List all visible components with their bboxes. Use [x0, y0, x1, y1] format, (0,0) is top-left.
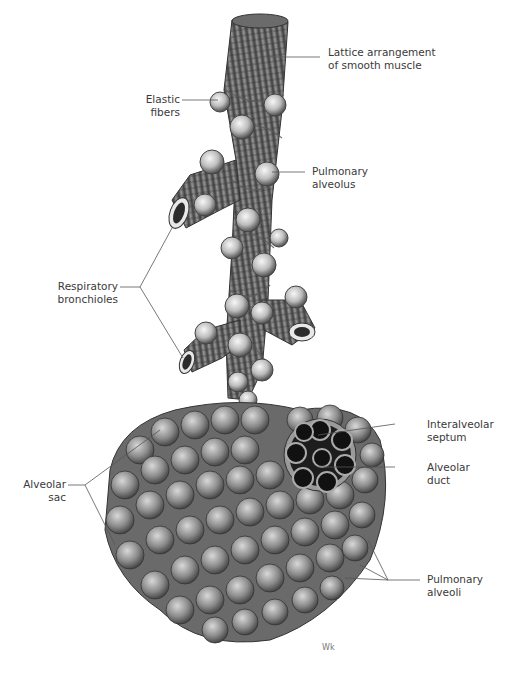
label-respiratory-bronchioles: Respiratory bronchioles: [50, 280, 118, 306]
label-line: Lattice arrangement: [328, 46, 436, 59]
label-line: Elastic: [140, 93, 180, 106]
label-line: sac: [16, 491, 66, 504]
label-line: septum: [427, 431, 494, 444]
label-interalveolar-septum: Interalveolar septum: [427, 418, 494, 444]
label-elastic-fibers: Elastic fibers: [140, 93, 180, 119]
artist-signature: Wk: [322, 643, 335, 652]
label-alveolar-sac: Alveolar sac: [16, 478, 66, 504]
label-line: Respiratory: [50, 280, 118, 293]
label-pulmonary-alveolus: Pulmonary alveolus: [312, 165, 368, 191]
label-pulmonary-alveoli: Pulmonary alveoli: [427, 573, 483, 599]
label-line: alveoli: [427, 586, 483, 599]
label-alveolar-duct: Alveolar duct: [427, 461, 470, 487]
label-line: Alveolar: [427, 461, 470, 474]
alveolar-duct-cross-section: [284, 419, 356, 492]
label-line: of smooth muscle: [328, 59, 436, 72]
label-line: fibers: [140, 106, 180, 119]
label-lattice-smooth-muscle: Lattice arrangement of smooth muscle: [328, 46, 436, 72]
label-line: Pulmonary: [312, 165, 368, 178]
anatomy-figure: Wk Lattice arrangement of smooth muscle …: [0, 0, 511, 677]
label-line: duct: [427, 474, 470, 487]
label-line: alveolus: [312, 178, 368, 191]
label-line: Interalveolar: [427, 418, 494, 431]
label-line: Alveolar: [16, 478, 66, 491]
label-line: Pulmonary: [427, 573, 483, 586]
label-line: bronchioles: [50, 293, 118, 306]
